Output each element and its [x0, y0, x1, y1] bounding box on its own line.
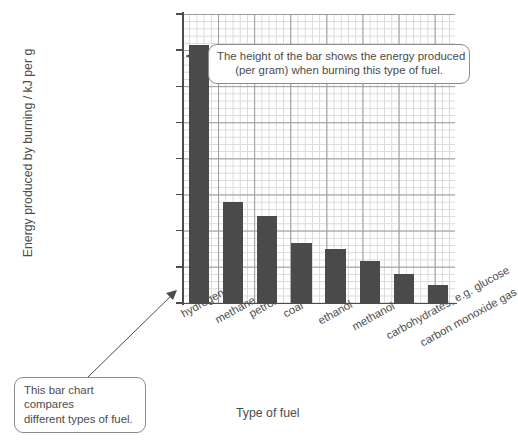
bar — [394, 274, 414, 303]
bar — [189, 45, 209, 303]
x-axis-title: Type of fuel — [236, 406, 300, 420]
callout-top-line1: The height of the bar shows the energy p… — [217, 49, 461, 63]
callout-chart-purpose-note: This bar chart compares different types … — [14, 377, 146, 433]
y-axis-title: Energy produced by burning / kJ per g — [21, 28, 35, 278]
callout-bar-height-note: The height of the bar shows the energy p… — [208, 44, 470, 84]
callout-bottom-line1: This bar chart compares — [24, 383, 137, 412]
callout-bottom-leader-arrow — [60, 285, 180, 380]
callout-top-line2: (per gram) when burning this type of fue… — [217, 63, 461, 77]
bar — [360, 261, 380, 303]
bar — [325, 249, 345, 303]
bar — [291, 243, 311, 303]
callout-bottom-line2: different types of fuel. — [24, 412, 137, 426]
